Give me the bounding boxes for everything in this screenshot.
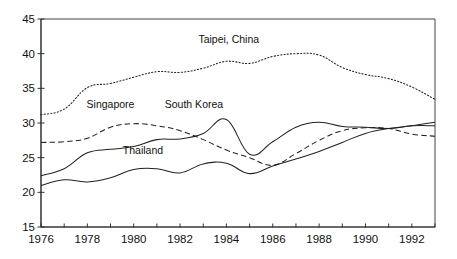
x-tick-label: 1982 (167, 233, 193, 245)
y-tick-label: 25 (22, 152, 35, 164)
y-tick-label: 30 (22, 117, 35, 129)
y-axis-tick-labels: 15202530354045 (22, 13, 35, 233)
data-series-lines (41, 53, 435, 185)
series-line-south-korea (41, 119, 435, 176)
plot-frame (41, 19, 435, 227)
x-axis-tick-labels: 197619781980198219841986198819901992 (28, 233, 424, 245)
x-tick-label: 1988 (306, 233, 332, 245)
x-tick-label: 1992 (399, 233, 425, 245)
series-label-thailand: Thailand (123, 144, 163, 156)
y-tick-label: 40 (22, 48, 35, 60)
x-tick-label: 1980 (121, 233, 147, 245)
line-chart-canvas: 15202530354045 1976197819801982198419861… (0, 0, 457, 259)
y-tick-label: 45 (22, 13, 35, 25)
series-label-singapore: Singapore (87, 98, 135, 110)
series-line-singapore (41, 124, 435, 166)
series-annotation-labels: Taipei, ChinaSingaporeSouth KoreaThailan… (87, 33, 260, 156)
y-tick-label: 35 (22, 82, 35, 94)
series-label-south-korea: South Korea (165, 98, 224, 110)
y-tick-label: 20 (22, 186, 35, 198)
x-tick-label: 1984 (214, 233, 240, 245)
x-tick-label: 1976 (28, 233, 54, 245)
axis-ticks (38, 19, 436, 228)
series-label-taipei-china: Taipei, China (198, 33, 259, 45)
x-tick-label: 1978 (75, 233, 101, 245)
x-tick-label: 1990 (353, 233, 379, 245)
x-tick-label: 1986 (260, 233, 286, 245)
chart-figure: 15202530354045 1976197819801982198419861… (0, 0, 457, 259)
y-tick-label: 15 (22, 221, 35, 233)
